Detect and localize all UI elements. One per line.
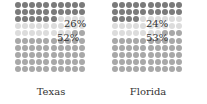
- waffle-dot: [29, 38, 35, 44]
- waffle-dot: [43, 59, 49, 65]
- waffle-dot: [176, 23, 182, 29]
- waffle-dot: [126, 59, 132, 65]
- waffle-dot: [36, 45, 42, 51]
- waffle-dot: [22, 30, 28, 36]
- waffle-dot: [65, 2, 71, 8]
- waffle-dot: [79, 66, 85, 72]
- waffle-dot: [15, 2, 21, 8]
- waffle-dot: [133, 16, 139, 22]
- waffle-dot: [79, 38, 85, 44]
- waffle-dot: [15, 38, 21, 44]
- florida-pct-bottom: 53%: [146, 33, 168, 43]
- waffle-dot: [140, 52, 146, 58]
- waffle-dot: [72, 9, 78, 15]
- waffle-dot: [176, 38, 182, 44]
- waffle-dot: [126, 45, 132, 51]
- waffle-dot: [133, 52, 139, 58]
- waffle-dot: [79, 30, 85, 36]
- waffle-dot: [58, 45, 64, 51]
- waffle-dot: [29, 45, 35, 51]
- waffle-dot: [58, 23, 64, 29]
- waffle-dot: [65, 59, 71, 65]
- waffle-dot: [29, 30, 35, 36]
- waffle-dot: [51, 2, 57, 8]
- waffle-dot: [176, 9, 182, 15]
- florida-label: Florida: [112, 86, 184, 97]
- texas-pct-bottom: 52%: [57, 33, 79, 43]
- waffle-dot: [112, 66, 118, 72]
- waffle-dot: [22, 38, 28, 44]
- waffle-dot: [15, 45, 21, 51]
- waffle-dot: [140, 9, 146, 15]
- waffle-dot: [79, 2, 85, 8]
- waffle-dot: [126, 16, 132, 22]
- waffle-dot: [43, 23, 49, 29]
- waffle-dot: [126, 9, 132, 15]
- waffle-dot: [112, 52, 118, 58]
- waffle-dot: [119, 23, 125, 29]
- waffle-dot: [176, 45, 182, 51]
- waffle-dot: [148, 66, 154, 72]
- waffle-panel-texas: 26% 52% Texas: [15, 2, 87, 74]
- waffle-dot: [176, 66, 182, 72]
- waffle-dot: [22, 52, 28, 58]
- waffle-dot: [155, 59, 161, 65]
- waffle-dot: [22, 2, 28, 8]
- waffle-dot: [51, 66, 57, 72]
- waffle-dot: [22, 16, 28, 22]
- waffle-dot: [43, 9, 49, 15]
- waffle-dot: [112, 16, 118, 22]
- waffle-dot: [119, 59, 125, 65]
- waffle-dot: [126, 2, 132, 8]
- waffle-dot: [51, 23, 57, 29]
- waffle-dot: [112, 38, 118, 44]
- waffle-dot: [65, 9, 71, 15]
- waffle-dot: [148, 9, 154, 15]
- waffle-dot: [65, 45, 71, 51]
- waffle-dot: [148, 52, 154, 58]
- waffle-dot: [140, 59, 146, 65]
- waffle-dot: [51, 38, 57, 44]
- waffle-dot: [36, 38, 42, 44]
- waffle-dot: [51, 45, 57, 51]
- waffle-dot: [79, 59, 85, 65]
- waffle-dot: [133, 23, 139, 29]
- waffle-dot: [162, 52, 168, 58]
- waffle-dot: [169, 59, 175, 65]
- waffle-dot: [126, 23, 132, 29]
- waffle-dot: [43, 16, 49, 22]
- waffle-dot: [133, 66, 139, 72]
- waffle-dot: [126, 38, 132, 44]
- waffle-dot: [29, 59, 35, 65]
- waffle-dot: [119, 38, 125, 44]
- waffle-dot: [126, 30, 132, 36]
- waffle-dot: [169, 52, 175, 58]
- waffle-dot: [119, 30, 125, 36]
- waffle-dot: [119, 9, 125, 15]
- waffle-dot: [133, 9, 139, 15]
- waffle-dot: [36, 23, 42, 29]
- waffle-dot: [36, 52, 42, 58]
- waffle-dot: [162, 59, 168, 65]
- waffle-dot: [15, 30, 21, 36]
- waffle-dot: [176, 16, 182, 22]
- waffle-dot: [29, 9, 35, 15]
- waffle-dot: [176, 30, 182, 36]
- waffle-dot: [36, 9, 42, 15]
- waffle-dot: [155, 45, 161, 51]
- waffle-dot: [169, 30, 175, 36]
- waffle-dot: [58, 16, 64, 22]
- waffle-dot: [15, 23, 21, 29]
- waffle-dot: [29, 16, 35, 22]
- waffle-dot: [29, 2, 35, 8]
- waffle-dot: [51, 9, 57, 15]
- waffle-dot: [43, 45, 49, 51]
- waffle-dot: [36, 2, 42, 8]
- waffle-dot: [22, 45, 28, 51]
- waffle-dot: [36, 59, 42, 65]
- waffle-dot: [155, 2, 161, 8]
- waffle-dot: [79, 9, 85, 15]
- waffle-dot: [112, 2, 118, 8]
- waffle-dot: [119, 16, 125, 22]
- waffle-dot: [162, 9, 168, 15]
